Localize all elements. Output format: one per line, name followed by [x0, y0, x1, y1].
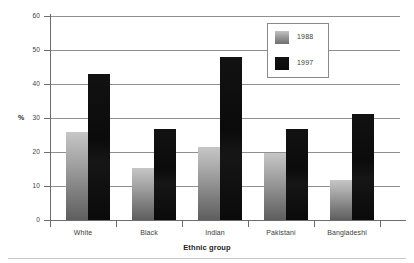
y-tick-10 [44, 186, 51, 187]
x-tick-1 [116, 221, 117, 227]
x-tick-3 [248, 221, 249, 227]
bar-white-1988 [66, 132, 88, 220]
x-tick-0 [50, 221, 51, 227]
y-tick-40 [44, 84, 51, 85]
legend-label-1988: 1988 [297, 33, 313, 40]
footer-divider [8, 258, 406, 259]
legend-swatch-1997 [275, 57, 289, 70]
y-tick-label-50: 50 [14, 46, 40, 53]
bar-black-1988 [132, 168, 154, 220]
x-tick-2 [182, 221, 183, 227]
y-tick-30 [44, 118, 51, 119]
chart-legend: 1988 1997 [267, 23, 329, 78]
y-tick-60 [44, 16, 51, 17]
y-tick-label-0: 0 [14, 216, 40, 223]
x-tick-4 [314, 221, 315, 227]
chart-figure: 60 50 40 30 20 10 0 White Black Indian P… [0, 0, 414, 263]
gridline-60 [50, 16, 400, 17]
legend-swatch-1988 [275, 31, 289, 44]
x-axis-line [44, 220, 406, 221]
y-tick-label-10: 10 [14, 182, 40, 189]
x-label-black: Black [119, 229, 179, 236]
bar-white-1997 [88, 74, 110, 220]
legend-label-1997: 1997 [297, 59, 313, 66]
y-tick-label-20: 20 [14, 148, 40, 155]
x-label-pakistani: Pakistani [251, 229, 311, 236]
gridline-50 [50, 50, 400, 51]
y-tick-label-60: 60 [14, 12, 40, 19]
bar-indian-1997 [220, 57, 242, 220]
bar-bangladeshi-1988 [330, 180, 352, 220]
plot-area [50, 16, 400, 220]
x-label-white: White [53, 229, 113, 236]
y-tick-label-40: 40 [14, 80, 40, 87]
x-axis-title: Ethnic group [0, 243, 414, 252]
x-label-indian: Indian [185, 229, 245, 236]
bar-indian-1988 [198, 147, 220, 220]
bar-bangladeshi-1997 [352, 114, 374, 220]
y-axis-title: % [18, 114, 24, 121]
x-label-bangladeshi: Bangladeshi [317, 229, 377, 236]
x-tick-5 [380, 221, 381, 227]
bar-pakistani-1988 [264, 153, 286, 220]
y-tick-20 [44, 152, 51, 153]
bar-pakistani-1997 [286, 129, 308, 221]
bar-black-1997 [154, 129, 176, 220]
y-tick-50 [44, 50, 51, 51]
